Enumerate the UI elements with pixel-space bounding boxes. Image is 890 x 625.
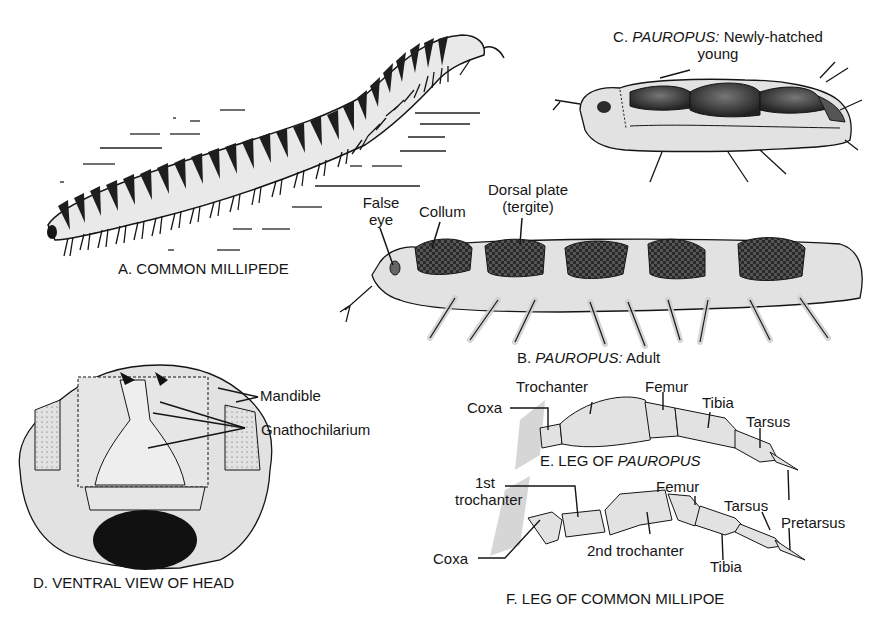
common-millipede-drawing <box>47 35 504 256</box>
caption-b-suffix: Adult <box>626 349 660 366</box>
label-e-tarsus: Tarsus <box>746 413 790 430</box>
label-f-first-trochanter-line1: 1st <box>475 474 495 491</box>
caption-c-suffix: Newly-hatched <box>724 28 823 45</box>
label-e-femur: Femur <box>645 378 688 395</box>
pauropus-young-drawing <box>553 62 862 182</box>
label-f-second-trochanter: 2nd trochanter <box>587 542 684 559</box>
label-e-trochanter: Trochanter <box>516 378 588 395</box>
label-collum: Collum <box>419 203 466 220</box>
caption-panel-b: B. PAUROPUS: Adult <box>517 349 660 366</box>
label-dorsal-plate-line1: Dorsal plate <box>488 181 568 198</box>
label-dorsal-plate: Dorsal plate (tergite) <box>478 181 578 215</box>
label-e-coxa: Coxa <box>467 399 502 416</box>
diagram-artwork <box>0 0 890 625</box>
caption-b-genus: PAUROPUS: <box>535 349 622 366</box>
caption-panel-d: D. VENTRAL VIEW OF HEAD <box>33 574 234 591</box>
caption-panel-c: C. PAUROPUS: Newly-hatched young <box>588 28 848 62</box>
label-gnathochilarium: Gnathochilarium <box>261 421 370 438</box>
label-false-eye-line1: False <box>363 194 400 211</box>
label-mandible: Mandible <box>260 387 321 404</box>
caption-c-genus: PAUROPUS: <box>632 28 719 45</box>
label-f-pretarsus: Pretarsus <box>781 514 845 531</box>
caption-panel-a: A. COMMON MILLIPEDE <box>118 260 289 277</box>
caption-b-prefix: B. <box>517 349 531 366</box>
caption-e-genus: PAUROPUS <box>618 452 701 469</box>
pauropus-adult-drawing <box>340 218 862 346</box>
label-false-eye: False eye <box>356 194 406 228</box>
caption-e-prefix: E. LEG OF <box>540 452 613 469</box>
caption-c-prefix: C. <box>613 28 628 45</box>
label-f-femur: Femur <box>656 478 699 495</box>
label-f-tarsus: Tarsus <box>724 497 768 514</box>
label-f-first-trochanter-line2: trochanter <box>455 491 523 508</box>
label-dorsal-plate-line2: (tergite) <box>502 198 554 215</box>
pauropus-leg-drawing <box>510 392 798 500</box>
caption-panel-f: F. LEG OF COMMON MILLIPOE <box>506 590 724 607</box>
ventral-head-drawing <box>19 365 272 570</box>
label-f-tibia: Tibia <box>710 558 742 575</box>
label-f-first-trochanter: 1st trochanter <box>455 474 515 508</box>
label-e-tibia: Tibia <box>702 394 734 411</box>
caption-c-line2: young <box>698 45 739 62</box>
caption-panel-e: E. LEG OF PAUROPUS <box>540 452 701 469</box>
label-f-coxa: Coxa <box>433 550 468 567</box>
label-false-eye-line2: eye <box>369 211 393 228</box>
